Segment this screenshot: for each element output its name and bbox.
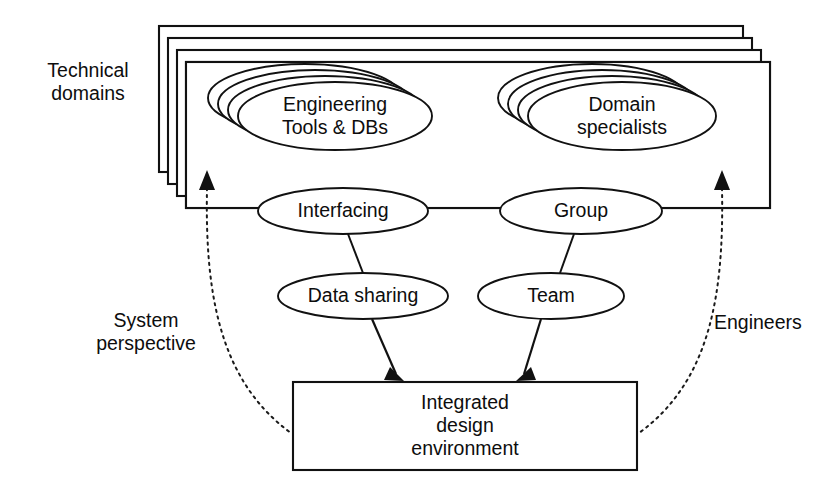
domain-specialists-label-line1: Domain [588, 93, 655, 115]
system-perspective-line1: System [113, 309, 178, 331]
technical-domains-line2: domains [51, 82, 125, 104]
system-perspective-label: System perspective [96, 309, 196, 354]
engineering-tools-label-line2: Tools & DBs [282, 116, 388, 138]
connector-group-to-team [560, 234, 574, 273]
group-label: Group [554, 199, 608, 221]
arrow-team-to-environment [516, 319, 541, 381]
environment-label-line2: design [436, 414, 493, 436]
team-label: Team [527, 284, 575, 306]
environment-label-line1: Integrated [421, 391, 509, 413]
diagram-svg: Engineering Tools & DBs Domain specialis… [0, 0, 838, 495]
data-sharing-label: Data sharing [308, 284, 419, 306]
engineers-label: Engineers [714, 311, 802, 333]
node-interfacing: Interfacing [258, 188, 428, 234]
domain-specialists-label-line2: specialists [577, 116, 667, 138]
technical-domains-label: Technical domains [47, 59, 128, 104]
node-data-sharing: Data sharing [278, 273, 448, 319]
system-perspective-line2: perspective [96, 332, 196, 354]
engineering-tools-label-line1: Engineering [283, 93, 387, 115]
integrated-design-environment-box: Integrated design environment [293, 382, 637, 470]
technical-domains-line1: Technical [47, 59, 128, 81]
node-group: Group [500, 188, 662, 234]
connector-interfacing-to-data-sharing [348, 234, 363, 273]
arrow-data-sharing-to-environment [372, 319, 404, 381]
node-team: Team [478, 273, 624, 319]
diagram-canvas: Engineering Tools & DBs Domain specialis… [0, 0, 838, 495]
environment-label-line3: environment [411, 437, 519, 459]
interfacing-label: Interfacing [297, 199, 388, 221]
